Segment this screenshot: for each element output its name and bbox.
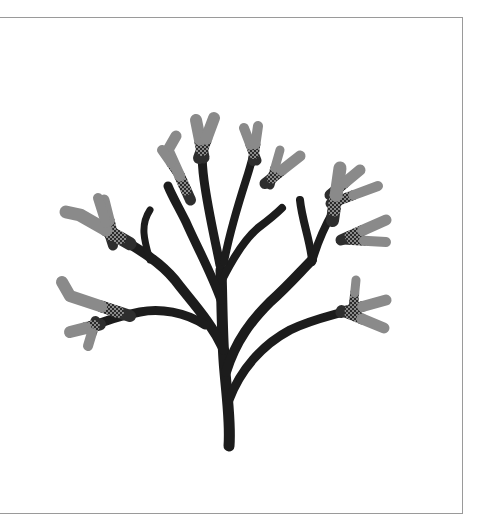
- branch-tip: [70, 328, 86, 332]
- branch-tip: [362, 319, 384, 328]
- branch-stem: [226, 260, 312, 372]
- branch-tip: [206, 118, 214, 139]
- branch-tip: [196, 120, 200, 140]
- branch-tip: [88, 333, 92, 346]
- branch-stem: [120, 238, 224, 350]
- branch-tip: [363, 300, 386, 307]
- branch-tip: [344, 170, 360, 183]
- dark-branches: [94, 148, 354, 446]
- branch-tip: [62, 282, 101, 306]
- branch-tip: [355, 280, 356, 293]
- branch-tip: [363, 220, 386, 230]
- branch-tip: [353, 186, 378, 195]
- branch-tip: [282, 156, 300, 170]
- branch-tip: [364, 241, 386, 242]
- branch-tip: [244, 128, 251, 145]
- branch-stem: [300, 200, 312, 260]
- branch-tip: [255, 126, 258, 144]
- seaweed-illustration: [0, 0, 479, 529]
- branch-stem: [144, 210, 150, 260]
- branch-stem: [202, 148, 220, 265]
